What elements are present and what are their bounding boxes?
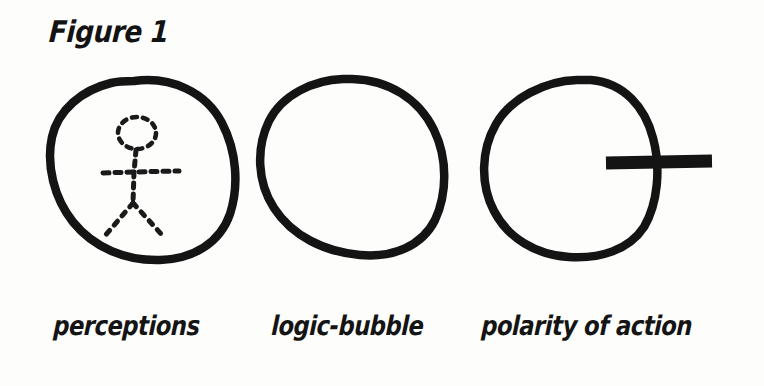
circle-outline-logic-bubble: [260, 79, 444, 255]
stick-figure-spine: [133, 150, 136, 203]
caption-perceptions: perceptions: [53, 312, 200, 339]
figure-page: Figure 1 perceptions: [0, 0, 764, 386]
panel-polarity-graphic: [484, 80, 712, 257]
polarity-bar: [606, 161, 712, 163]
panel-logic-bubble-graphic: [260, 79, 444, 255]
stick-figure-head: [118, 117, 156, 149]
stick-figure-left-leg: [104, 203, 133, 237]
stick-figure-right-leg: [133, 203, 163, 236]
stick-figure-arms: [103, 171, 179, 173]
caption-logic-bubble: logic-bubble: [271, 312, 424, 339]
panel-perceptions-graphic: [50, 80, 235, 260]
caption-polarity-of-action: polarity of action: [481, 312, 693, 339]
